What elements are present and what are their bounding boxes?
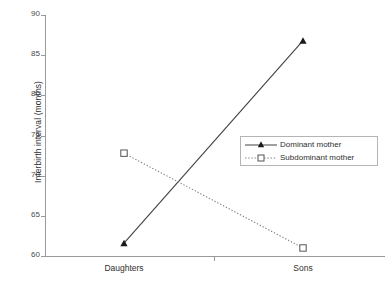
line-chart: Interbirth interval (months) 60657075808… <box>0 0 391 286</box>
legend-sample-subdominant-mother <box>244 151 278 165</box>
legend-item-subdominant-mother: Subdominant mother <box>244 151 376 165</box>
data-point-marker <box>299 37 306 43</box>
legend-label-dominant-mother: Dominant mother <box>280 140 341 149</box>
legend-sample-dominant-mother <box>244 138 278 152</box>
legend: Dominant mother Subdominant mother <box>240 136 378 166</box>
data-point-marker <box>300 245 306 251</box>
series-line-subdominant-mother <box>124 153 303 248</box>
legend-item-dominant-mother: Dominant mother <box>244 138 376 152</box>
legend-label-subdominant-mother: Subdominant mother <box>280 153 354 162</box>
data-point-marker <box>121 150 127 156</box>
